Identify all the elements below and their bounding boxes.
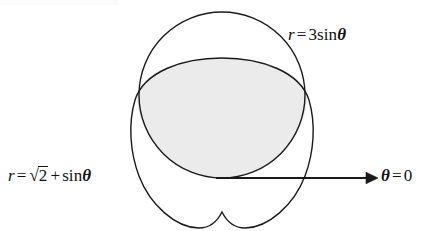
label-limacon-lhs: r (8, 166, 15, 185)
label-limacon-function: sin (62, 166, 82, 185)
label-polar-axis: θ=0 (381, 167, 412, 184)
polar-axis-arrowhead-icon (366, 172, 378, 184)
label-circle-equation: r=3sinθ (288, 26, 346, 43)
label-limacon-equation: r=√2+sinθ (8, 166, 91, 184)
label-limacon-angle: θ (82, 166, 91, 185)
label-axis-value: 0 (404, 166, 413, 185)
label-axis-angle: θ (381, 166, 390, 185)
label-circle-lhs: r (288, 25, 295, 44)
label-circle-equals: = (295, 25, 309, 44)
label-limacon-radicand: 2 (38, 166, 49, 184)
shaded-intersection-region (137, 58, 307, 178)
label-circle-function: sin (317, 25, 337, 44)
label-limacon-equals: = (15, 166, 29, 185)
label-limacon-radical: √2 (28, 166, 48, 184)
polar-figure: r=3sinθ r=√2+sinθ θ=0 (0, 0, 430, 231)
figure-canvas (0, 0, 430, 231)
label-circle-angle: θ (337, 25, 346, 44)
label-limacon-plus: + (48, 166, 62, 185)
label-circle-coefficient: 3 (308, 25, 317, 44)
label-axis-equals: = (390, 166, 404, 185)
